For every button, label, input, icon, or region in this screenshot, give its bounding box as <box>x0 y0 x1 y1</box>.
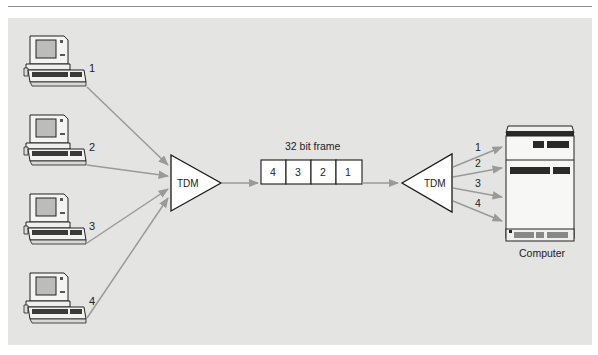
terminal-label: 2 <box>89 141 95 153</box>
computer-label: Computer <box>519 247 566 259</box>
output-label-3: 3 <box>475 177 481 189</box>
demultiplexer: TDM <box>402 154 452 212</box>
multiplexer: TDM <box>171 155 221 211</box>
terminal-2: 2 <box>24 115 95 165</box>
computer-icon <box>506 126 574 241</box>
input-arrows <box>87 87 168 318</box>
frame-slot-label: 3 <box>295 166 301 178</box>
terminal-3: 3 <box>24 194 95 244</box>
frame-slot-label: 1 <box>345 166 351 178</box>
frame-slot-label: 4 <box>270 166 276 178</box>
terminal-icon <box>24 273 86 323</box>
terminal-label: 1 <box>89 62 95 74</box>
frame-slot-label: 2 <box>320 166 326 178</box>
terminal-label: 4 <box>89 295 95 307</box>
terminal-4: 4 <box>24 273 95 323</box>
demultiplexer-label: TDM <box>424 178 446 189</box>
terminal-label: 3 <box>89 220 95 232</box>
tdm-diagram: 1 2 3 4 TDM 32 bit frame 4 3 2 1 <box>0 0 598 355</box>
frame-title: 32 bit frame <box>285 140 341 152</box>
output-label-1: 1 <box>475 141 481 153</box>
output-label-2: 2 <box>475 157 481 169</box>
multiplexer-label: TDM <box>177 178 199 189</box>
terminal-icon <box>24 115 86 165</box>
terminal-icon <box>24 36 86 86</box>
output-label-4: 4 <box>475 197 481 209</box>
computer: Computer <box>506 126 574 259</box>
frame: 32 bit frame 4 3 2 1 <box>261 140 362 184</box>
terminal-1: 1 <box>24 36 95 86</box>
terminal-icon <box>24 194 86 244</box>
